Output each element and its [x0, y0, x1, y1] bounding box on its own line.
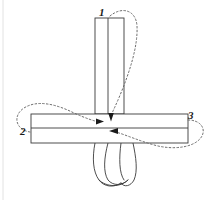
hanging-strip-inner-right	[120, 143, 124, 180]
hanging-strip-outer-left	[93, 143, 121, 186]
horizontal-strip-body	[31, 114, 188, 143]
strip-weaving-diagram	[0, 0, 215, 200]
diagram-canvas: 1 2 3	[0, 0, 215, 200]
vertical-strip-body	[95, 18, 124, 114]
callout-label-1: 1	[99, 7, 105, 18]
callout-label-3: 3	[188, 110, 194, 121]
horizontal-strip-group	[31, 114, 188, 143]
hanging-strip-group	[93, 143, 136, 186]
callout-label-2: 2	[20, 126, 26, 137]
vertical-strip-group	[95, 18, 124, 114]
